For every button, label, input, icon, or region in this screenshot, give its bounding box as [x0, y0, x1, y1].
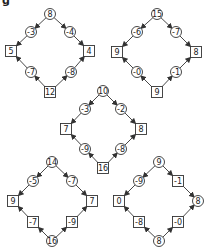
diagram-canvas: 8-3-454-7-81215-6-798-0-1910-3-278-9-816… [0, 0, 206, 248]
arrow-edge [108, 153, 117, 163]
arrow-edge [37, 166, 48, 177]
arrow-edge [141, 18, 153, 29]
arrow-edge [163, 166, 173, 176]
arrow-edge [54, 18, 66, 29]
box-node: -7 [28, 217, 39, 228]
circle-node: 9 [154, 157, 165, 168]
circle-node: -1 [171, 67, 182, 78]
node-label: -5 [29, 177, 37, 186]
circle-node: -9 [80, 144, 91, 155]
box-node: -8 [134, 217, 145, 228]
arrow-edge [56, 227, 67, 237]
diagram-middle: 10-3-278-9-816 [61, 86, 147, 174]
box-node: 5 [6, 46, 17, 57]
arrow-edge [163, 228, 173, 238]
arrow-edge [89, 153, 98, 163]
arrow-edge [17, 36, 28, 46]
node-label: 16 [98, 164, 108, 173]
circle-node: -4 [65, 27, 76, 38]
arrow-edge [18, 207, 28, 217]
arrow-edge [74, 36, 84, 46]
node-label: -1 [174, 177, 182, 186]
arrow-edge [71, 113, 81, 124]
circle-node: 10 [98, 86, 109, 97]
node-label: -1 [172, 68, 180, 77]
arrow-edge [35, 76, 45, 87]
arrow-edge [125, 135, 136, 146]
circle-node: -7 [26, 67, 37, 78]
node-label: 8 [193, 48, 198, 57]
arrow-edge [19, 185, 30, 196]
box-node: 9 [152, 87, 163, 98]
arrow-edge [180, 58, 191, 69]
node-label: -2 [117, 105, 125, 114]
circle-node: -2 [116, 104, 127, 115]
arrow-edge [145, 227, 156, 237]
arrow-edge [71, 135, 81, 146]
node-label: 9 [114, 48, 119, 57]
box-node: 8 [136, 124, 147, 135]
circle-node: 16 [47, 236, 58, 247]
node-label: -0 [174, 218, 182, 227]
diagram-bottom-right: 9-9-108-8-08 [114, 157, 204, 247]
circle-node: -7 [67, 176, 78, 187]
node-label: 7 [63, 125, 68, 134]
arrow-edge [89, 95, 99, 105]
circle-node: -7 [171, 27, 182, 38]
node-label: -9 [135, 177, 143, 186]
node-label: -0 [133, 68, 141, 77]
node-label: 10 [98, 87, 108, 96]
node-label: -6 [133, 28, 141, 37]
node-label: -9 [81, 145, 89, 154]
box-node: 9 [8, 196, 19, 207]
node-label: 0 [116, 197, 121, 206]
node-label: 8 [47, 10, 52, 19]
node-label: 8 [156, 237, 161, 246]
arrow-edge [56, 166, 68, 177]
arrow-edge [125, 113, 136, 124]
box-node: -9 [67, 217, 78, 228]
node-label: -3 [27, 28, 35, 37]
node-label: 12 [45, 88, 55, 97]
arrow-edge [184, 187, 195, 198]
node-label: -4 [66, 28, 74, 37]
circle-node: 14 [47, 157, 58, 168]
box-node: 7 [61, 124, 72, 135]
diagram-bottom-left: 14-5-797-7-916 [8, 157, 98, 247]
box-node: 8 [191, 47, 202, 58]
arrow-edge [124, 207, 134, 217]
arrow-edge [123, 36, 134, 47]
node-label: -7 [29, 218, 37, 227]
circle-node: 8 [193, 196, 204, 207]
node-label: -8 [117, 145, 125, 154]
node-label: 8 [138, 125, 143, 134]
arrow-edge [16, 57, 27, 69]
node-label: 7 [89, 197, 94, 206]
circle-node: -5 [28, 176, 39, 187]
diagram-top-right: 15-6-798-0-19 [112, 9, 202, 98]
circle-node: -3 [26, 27, 37, 38]
circle-node: -9 [134, 176, 145, 187]
arrow-edge [76, 185, 87, 196]
circle-node: -8 [66, 67, 77, 78]
circle-node: 8 [154, 236, 165, 247]
arrow-edge [107, 95, 117, 105]
arrow-edge [35, 18, 46, 28]
arrow-edge [123, 58, 134, 69]
arrow-edge [75, 57, 85, 68]
node-label: -8 [135, 218, 143, 227]
circle-node: 15 [152, 9, 163, 20]
node-label: 9 [154, 88, 159, 97]
node-label: -7 [27, 68, 35, 77]
box-node: 0 [114, 196, 125, 207]
arrow-edge [180, 36, 191, 47]
arrow-edge [39, 228, 49, 238]
node-label: 16 [47, 237, 57, 246]
node-label: -9 [68, 218, 76, 227]
box-node: -1 [173, 176, 184, 187]
node-label: 5 [8, 47, 13, 56]
node-label: -7 [68, 177, 76, 186]
diagram-top-left: 8-3-454-7-812 [6, 9, 95, 98]
nodes-layer: 8-3-454-7-81215-6-798-0-1910-3-278-9-816… [6, 9, 204, 247]
circle-node: -8 [116, 144, 127, 155]
